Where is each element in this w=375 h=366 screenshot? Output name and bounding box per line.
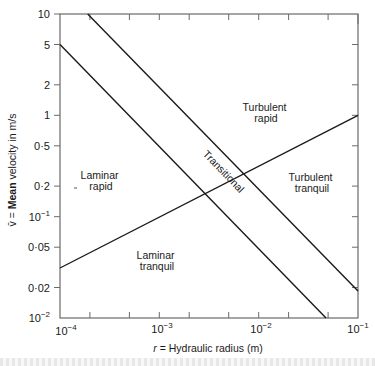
x-tick-base: 10 (55, 325, 67, 337)
y-tick-label: 0·02 (28, 282, 50, 294)
y-tick-label: 0·05 (28, 241, 50, 253)
y-tick-base: 10 (29, 211, 41, 223)
turbulent-tranquil-label: Turbulent tranquil (289, 171, 336, 194)
y-tick-exp: −2 (41, 310, 51, 319)
turbulent-rapid-label: Turbulent rapid (243, 101, 290, 124)
x-tick-base: 10 (347, 323, 359, 335)
x-axis-label: r = Hydraulic radius (m) (153, 342, 262, 354)
y-tick-label: 10−1 (29, 209, 51, 223)
flow-regime-chart: 10 5 2 1 0·5 0·2 10−1 0·05 0·02 10−2 10−… (0, 0, 375, 366)
x-tick-label: 10−4 (55, 323, 77, 337)
boundary-lines (60, 14, 358, 318)
x-tick-base: 10 (250, 323, 262, 335)
y-tick-exp: −1 (41, 209, 51, 218)
y-tick-base: 10 (29, 312, 41, 324)
x-tick-exp: −3 (164, 321, 174, 330)
x-tick-base: 10 (151, 323, 163, 335)
y-tick-labels: 10 5 2 1 0·5 0·2 10−1 0·05 0·02 10−2 (28, 8, 51, 324)
y-axis-label: v̄ = Mean velocity in m/s (6, 114, 18, 227)
transitional-label: Transitional (201, 148, 247, 195)
x-tick-label: 10−3 (151, 321, 173, 335)
y-tick-label: 1 (44, 109, 50, 121)
laminar-rapid-label: Laminar rapid (81, 169, 122, 192)
transitional-turbulent-boundary (88, 14, 358, 291)
y-tick-label: 0·5 (34, 140, 50, 152)
region-labels: Laminar rapid Turbulent rapid Turbulent … (81, 101, 336, 272)
x-tick-label: 10−2 (250, 321, 272, 335)
x-tick-exp: −2 (263, 321, 273, 330)
x-tick-exp: −4 (68, 323, 78, 332)
y-tick-label: 10 (38, 8, 50, 20)
y-tick-label: 0·2 (34, 180, 50, 192)
x-tick-labels: 10−4 10−3 10−2 10−1 (55, 321, 369, 337)
y-tick-label: 5 (44, 39, 50, 51)
x-tick-exp: −1 (360, 321, 370, 330)
cropped-caption (0, 358, 375, 366)
y-tick-label: 2 (44, 79, 50, 91)
x-tick-label: 10−1 (347, 321, 369, 335)
laminar-tranquil-label: Laminar tranquil (137, 249, 178, 272)
y-tick-label: 10−2 (29, 310, 51, 324)
plot-frame (60, 14, 358, 318)
